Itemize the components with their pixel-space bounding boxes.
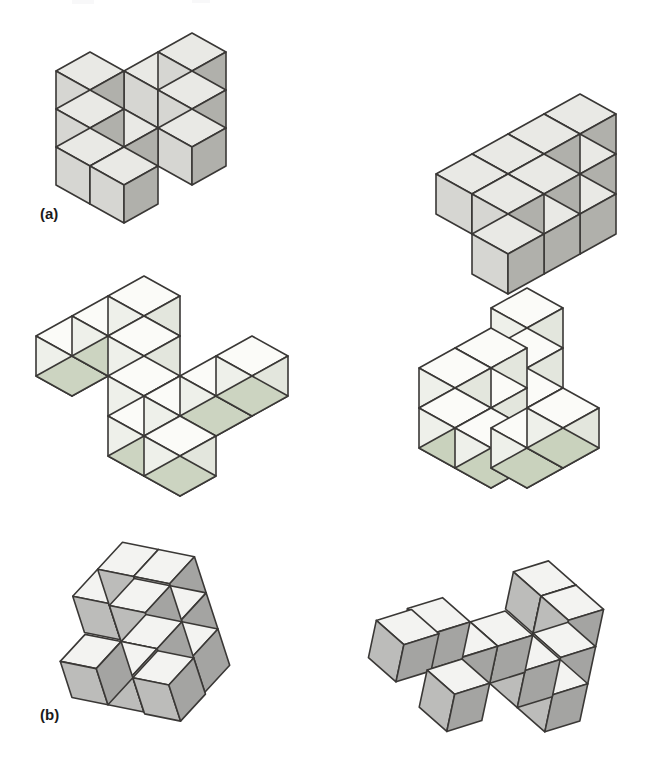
figure-a-right-svg bbox=[440, 70, 658, 240]
row-label-a: (a) bbox=[40, 205, 58, 222]
figure-c-left bbox=[17, 504, 274, 768]
figure-c-right-svg bbox=[357, 519, 637, 761]
figure-row-c: (c) bbox=[0, 512, 658, 768]
figure-b-right-svg bbox=[415, 284, 625, 484]
figure-b-left bbox=[20, 276, 300, 506]
figure-a-left bbox=[60, 30, 260, 230]
figure-a-right bbox=[440, 70, 658, 240]
figure-b-right bbox=[415, 284, 625, 484]
figure-b-left-svg bbox=[20, 276, 300, 506]
figure-c-left-svg bbox=[17, 504, 274, 768]
figure-sheet: (a) bbox=[0, 0, 658, 768]
figure-a-left-svg bbox=[60, 30, 260, 230]
figure-row-a: (a) bbox=[0, 0, 658, 256]
figure-c-right bbox=[357, 519, 637, 761]
figure-row-b: (b) bbox=[0, 256, 658, 512]
